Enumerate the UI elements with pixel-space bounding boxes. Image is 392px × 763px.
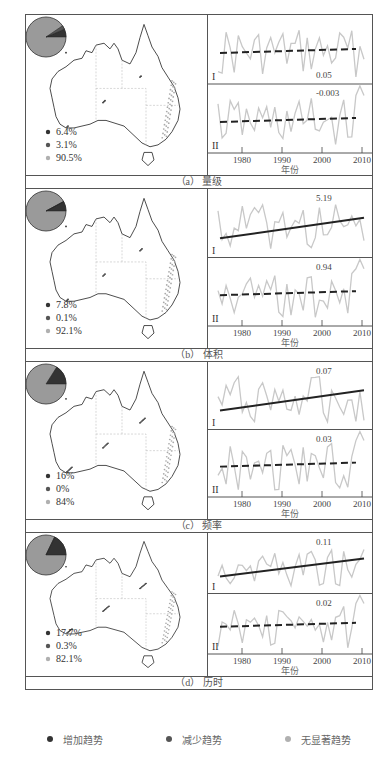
trend-slope-value: 0.94	[316, 262, 332, 272]
figure-legend: 增加趋势 减少趋势 无显著趋势	[25, 731, 371, 747]
series-line	[218, 596, 364, 648]
pie-percent-label: 16%	[56, 470, 74, 481]
pie-percent-label: 3.1%	[56, 139, 77, 150]
pie-chart-icon	[26, 535, 66, 575]
pie-chart-icon	[26, 364, 66, 404]
pie-chart-icon	[26, 17, 66, 57]
subpanel-label: II	[212, 484, 219, 495]
trend-slope-value: 0.11	[316, 537, 331, 547]
trend-slope-value: 0.02	[316, 598, 332, 608]
trend-slope-value: 0.05	[316, 70, 332, 80]
x-axis-label: 年份	[281, 164, 299, 175]
pie-percent-label: 84%	[56, 496, 74, 507]
legend-label: 增加趋势	[63, 732, 103, 747]
x-tick-label: 2010	[353, 499, 372, 509]
figure-frame: 6.4%3.1%90.5%I0.05II-0.00319801990200020…	[25, 14, 373, 690]
panel-caption: （a） 量级	[26, 175, 372, 188]
timeseries-d: I0.11II0.021980199020002010年份	[208, 533, 372, 676]
trend-line	[220, 218, 364, 239]
pie-percent-label: 7.8%	[56, 299, 77, 310]
timeseries-a: I0.05II-0.0031980199020002010年份	[208, 15, 372, 175]
x-tick-label: 2010	[353, 328, 372, 338]
x-tick-label: 1980	[233, 155, 252, 165]
timeseries-c: I0.07II0.031980199020002010年份	[208, 362, 372, 519]
x-tick-label: 2000	[313, 155, 332, 165]
x-axis-label: 年份	[281, 337, 299, 348]
panel-d: 17.7%0.3%82.1%I0.11II0.02198019902000201…	[26, 533, 372, 689]
x-tick-label: 1980	[233, 656, 252, 666]
subpanel-label: I	[212, 245, 215, 256]
x-tick-label: 1980	[233, 499, 252, 509]
series-line	[218, 432, 364, 490]
panel-a: 6.4%3.1%90.5%I0.05II-0.00319801990200020…	[26, 15, 372, 189]
x-tick-label: 2000	[313, 656, 332, 666]
x-tick-label: 2000	[313, 328, 332, 338]
australia-map-icon: 17.7%0.3%82.1%	[26, 533, 207, 676]
panel-c: 16%0%84%I0.07II0.031980199020002010年份（c）…	[26, 362, 372, 533]
map-c: 16%0%84%	[26, 362, 208, 519]
series-line	[218, 377, 364, 422]
x-tick-label: 2010	[353, 656, 372, 666]
x-tick-label: 1990	[273, 656, 292, 666]
pie-percent-label: 6.4%	[56, 126, 77, 137]
australia-map-icon: 7.8%0.1%92.1%	[26, 189, 207, 348]
pie-percent-label: 90.5%	[56, 152, 82, 163]
timeseries-b: I5.19II0.941980199020002010年份	[208, 189, 372, 348]
subpanel-label: I	[212, 71, 215, 82]
x-tick-label: 1990	[273, 328, 292, 338]
panel-caption: （c） 频率	[26, 519, 372, 532]
series-line	[218, 86, 364, 144]
series-line	[218, 205, 364, 249]
series-line	[218, 260, 364, 318]
panel-caption: （d） 历时	[26, 676, 372, 689]
australia-map-icon: 16%0%84%	[26, 362, 207, 519]
legend-item-insignificant: 无显著趋势	[263, 731, 371, 747]
x-tick-label: 1990	[273, 499, 292, 509]
subpanel-label: II	[212, 313, 219, 324]
trend-line	[220, 623, 356, 627]
legend-label: 无显著趋势	[301, 732, 351, 747]
x-tick-label: 2010	[353, 155, 372, 165]
series-line	[218, 30, 364, 77]
map-b: 7.8%0.1%92.1%	[26, 189, 208, 348]
x-axis-label: 年份	[281, 665, 299, 676]
panel-caption: （b） 体积	[26, 348, 372, 361]
pie-percent-label: 17.7%	[56, 627, 82, 638]
australia-map-icon: 6.4%3.1%90.5%	[26, 15, 207, 175]
pie-percent-label: 0.1%	[56, 312, 77, 323]
subpanel-label: I	[212, 417, 215, 428]
map-d: 17.7%0.3%82.1%	[26, 533, 208, 676]
pie-chart-icon	[26, 191, 66, 231]
legend-item-decrease: 减少趋势	[144, 731, 242, 747]
x-tick-label: 1990	[273, 155, 292, 165]
trend-slope-value: -0.003	[316, 88, 340, 98]
pie-percent-label: 0%	[56, 483, 69, 494]
pie-percent-label: 0.3%	[56, 640, 77, 651]
pie-percent-label: 92.1%	[56, 325, 82, 336]
pie-percent-label: 82.1%	[56, 653, 82, 664]
x-axis-label: 年份	[281, 508, 299, 519]
trend-slope-value: 0.07	[316, 366, 332, 376]
legend-dot-decrease-icon	[166, 736, 172, 742]
trend-slope-value: 0.03	[316, 434, 332, 444]
legend-item-increase: 增加趋势	[25, 731, 123, 747]
legend-dot-increase-icon	[47, 736, 53, 742]
trend-slope-value: 5.19	[316, 193, 332, 203]
panel-b: 7.8%0.1%92.1%I5.19II0.941980199020002010…	[26, 189, 372, 362]
subpanel-label: I	[212, 581, 215, 592]
subpanel-label: II	[212, 140, 219, 151]
legend-dot-insignificant-icon	[285, 736, 291, 742]
x-tick-label: 1980	[233, 328, 252, 338]
map-a: 6.4%3.1%90.5%	[26, 15, 208, 175]
subpanel-label: II	[212, 641, 219, 652]
legend-label: 减少趋势	[182, 732, 222, 747]
trend-line	[220, 49, 356, 53]
x-tick-label: 2000	[313, 499, 332, 509]
